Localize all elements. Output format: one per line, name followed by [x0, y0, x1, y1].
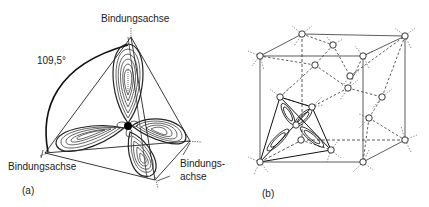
tetrahedral-cell — [260, 97, 331, 162]
caption-b: (b) — [262, 188, 274, 199]
lattice-atoms — [257, 31, 408, 165]
orbital-lobe-bottom — [128, 132, 156, 176]
angle-label: 109,5° — [37, 55, 66, 66]
axis-label-left: Bindungsachse — [8, 161, 76, 172]
caption-a: (a) — [22, 185, 34, 196]
axis-label-right-line2: achse — [180, 171, 207, 182]
orbital-lobe-right — [132, 119, 186, 144]
diagram-canvas — [0, 0, 429, 207]
tetrahedron — [45, 37, 190, 180]
cube-back-face — [302, 34, 405, 140]
nucleus — [124, 122, 132, 130]
axis-label-top: Bindungsachse — [101, 13, 169, 24]
axis-label-right-line1: Bindungs- — [180, 158, 225, 169]
panel-b-diagram — [248, 26, 417, 174]
figure: Bindungsachse 109,5° Bindungsachse Bindu… — [0, 0, 429, 207]
